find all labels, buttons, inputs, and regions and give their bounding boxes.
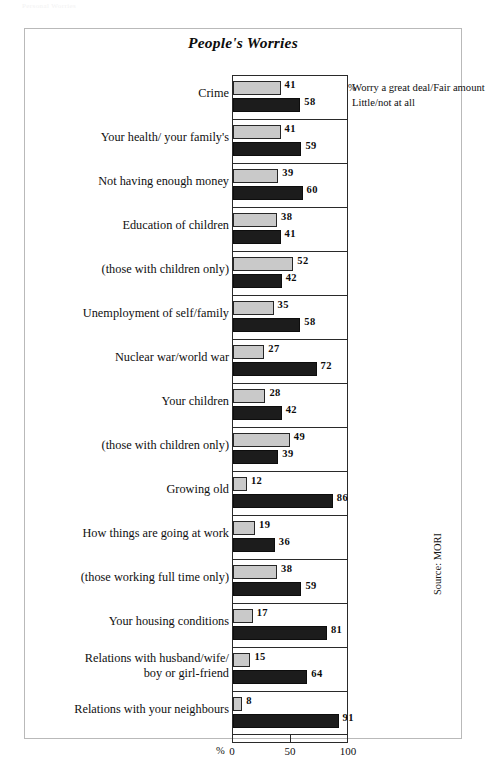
bar-value-little-not-at-all: 91 — [343, 712, 354, 723]
category-label: Nuclear war/world war — [3, 351, 233, 365]
bar-value-worry-great-deal: 38 — [281, 563, 292, 574]
category-label: (those with children only) — [3, 439, 233, 453]
bar-little-not-at-all — [233, 538, 275, 552]
bar-little-not-at-all — [233, 626, 327, 640]
bar-value-little-not-at-all: 72 — [321, 360, 332, 371]
bar-little-not-at-all — [233, 186, 303, 200]
chart-row: Your children2842 — [232, 383, 348, 427]
x-axis-tick — [232, 735, 233, 743]
category-label: Your housing conditions — [3, 615, 233, 629]
bar-value-little-not-at-all: 86 — [337, 492, 348, 503]
bar-value-little-not-at-all: 64 — [311, 668, 322, 679]
page-faint-header: Personal Worries — [22, 2, 76, 10]
bar-value-worry-great-deal: 15 — [254, 651, 265, 662]
category-label: Your health/ your family's — [3, 131, 233, 145]
bar-value-worry-great-deal: 49 — [294, 431, 305, 442]
category-label: Relations with your neighbours — [3, 703, 233, 717]
bar-value-worry-great-deal: 17 — [257, 607, 268, 618]
bar-little-not-at-all — [233, 318, 300, 332]
bar-worry-great-deal — [233, 213, 277, 227]
x-axis-tick — [347, 735, 348, 743]
source-note: Source: MORI — [432, 533, 443, 595]
bar-little-not-at-all — [233, 714, 339, 728]
bar-value-little-not-at-all: 59 — [305, 140, 316, 151]
legend-item-little-not-at-all: Little/not at all — [352, 95, 485, 110]
chart-row: Education of children3841 — [232, 207, 348, 251]
bar-value-little-not-at-all: 60 — [307, 184, 318, 195]
chart-row: Your health/ your family's4159 — [232, 119, 348, 163]
bar-value-worry-great-deal: 12 — [251, 475, 262, 486]
category-label: (those with children only) — [3, 263, 233, 277]
category-label: Unemployment of self/family — [3, 307, 233, 321]
bar-value-worry-great-deal: 38 — [281, 211, 292, 222]
bar-little-not-at-all — [233, 98, 300, 112]
bar-worry-great-deal — [233, 653, 250, 667]
bar-value-little-not-at-all: 58 — [304, 96, 315, 107]
chart-title: People's Worries — [0, 34, 486, 52]
chart-row: Not having enough money3960 — [232, 163, 348, 207]
bar-little-not-at-all — [233, 406, 282, 420]
bar-value-little-not-at-all: 39 — [282, 448, 293, 459]
bar-value-worry-great-deal: 35 — [278, 299, 289, 310]
category-label: Growing old — [3, 483, 233, 497]
category-label: Education of children — [3, 219, 233, 233]
chart-row: Crime4158 — [232, 75, 348, 119]
bar-little-not-at-all — [233, 230, 281, 244]
bar-worry-great-deal — [233, 301, 274, 315]
bar-worry-great-deal — [233, 433, 290, 447]
bar-worry-great-deal — [233, 697, 242, 711]
legend-item-worry-great-deal: Worry a great deal/Fair amount — [352, 80, 485, 95]
chart-row: How things are going at work1936 — [232, 515, 348, 559]
category-label: Crime — [3, 87, 233, 101]
bar-value-little-not-at-all: 59 — [305, 580, 316, 591]
bar-value-little-not-at-all: 36 — [279, 536, 290, 547]
category-label: Relations with husband/wife/ — [3, 652, 233, 666]
bar-little-not-at-all — [233, 494, 333, 508]
chart-row: Growing old1286 — [232, 471, 348, 515]
bar-value-worry-great-deal: 28 — [269, 387, 280, 398]
bar-value-worry-great-deal: 41 — [285, 79, 296, 90]
bar-little-not-at-all — [233, 142, 301, 156]
x-axis-tick — [290, 735, 291, 743]
x-axis-tick-label: 100 — [340, 745, 357, 757]
bar-value-little-not-at-all: 58 — [304, 316, 315, 327]
bar-worry-great-deal — [233, 521, 255, 535]
bar-worry-great-deal — [233, 389, 265, 403]
bar-value-worry-great-deal: 19 — [259, 519, 270, 530]
bar-value-little-not-at-all: 42 — [286, 272, 297, 283]
bar-value-little-not-at-all: 81 — [331, 624, 342, 635]
chart-row: Relations with your neighbours891 — [232, 691, 348, 735]
chart-legend: Worry a great deal/Fair amount Little/no… — [352, 80, 485, 110]
chart-plot-area: Crime4158Your health/ your family's4159N… — [232, 75, 348, 735]
bar-little-not-at-all — [233, 450, 278, 464]
bar-worry-great-deal — [233, 609, 253, 623]
bar-little-not-at-all — [233, 670, 307, 684]
bar-worry-great-deal — [233, 169, 278, 183]
category-label: Not having enough money — [3, 175, 233, 189]
chart-row: (those working full time only)3859 — [232, 559, 348, 603]
bar-value-worry-great-deal: 39 — [282, 167, 293, 178]
chart-row: Your housing conditions1781 — [232, 603, 348, 647]
x-axis-tick-label: 0 — [229, 745, 235, 757]
chart-row: Nuclear war/world war2772 — [232, 339, 348, 383]
bar-value-little-not-at-all: 42 — [286, 404, 297, 415]
bar-value-worry-great-deal: 8 — [246, 695, 252, 706]
bar-worry-great-deal — [233, 257, 293, 271]
bar-worry-great-deal — [233, 345, 264, 359]
category-label: (those working full time only) — [3, 571, 233, 585]
bar-worry-great-deal — [233, 477, 247, 491]
chart-row: Unemployment of self/family3558 — [232, 295, 348, 339]
x-axis-tick-label: 50 — [285, 745, 296, 757]
x-axis-unit-label: % — [216, 745, 225, 756]
bar-value-little-not-at-all: 41 — [285, 228, 296, 239]
chart-row: (those with children only)5242 — [232, 251, 348, 295]
bar-value-worry-great-deal: 52 — [297, 255, 308, 266]
category-label: How things are going at work — [3, 527, 233, 541]
bar-little-not-at-all — [233, 582, 301, 596]
chart-row: (those with children only)4939 — [232, 427, 348, 471]
bar-little-not-at-all — [233, 274, 282, 288]
category-label: Your children — [3, 395, 233, 409]
bar-little-not-at-all — [233, 362, 317, 376]
x-axis: 050100 — [232, 735, 348, 761]
bar-value-worry-great-deal: 41 — [285, 123, 296, 134]
